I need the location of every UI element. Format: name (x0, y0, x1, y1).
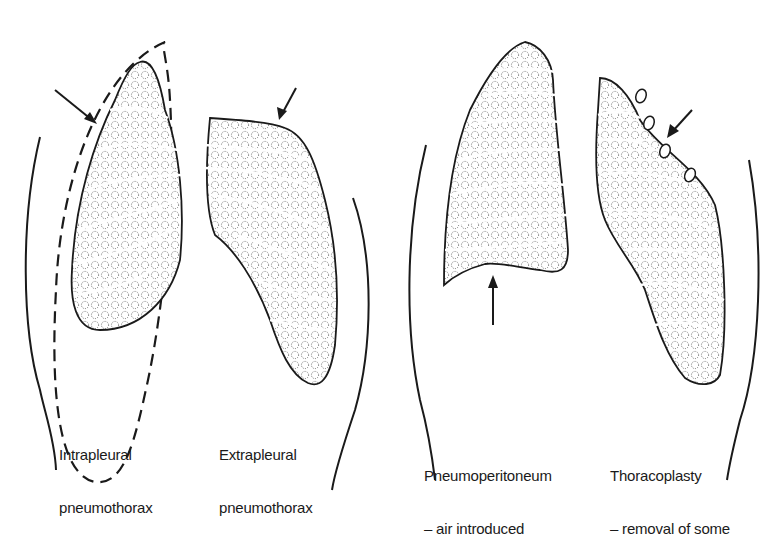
panel-pneumoperitoneum (409, 42, 568, 480)
caption-line: – air introduced (424, 520, 552, 534)
arrow-icon (488, 275, 498, 325)
caption-line: pneumothorax (59, 499, 159, 517)
arrow-icon (277, 88, 296, 120)
chest-wall-left (26, 137, 56, 470)
caption-line: – removal of some (610, 520, 730, 534)
caption-line: Pneumoperitoneum (424, 467, 552, 485)
collapsed-lung (72, 62, 182, 330)
caption-line: Extrapleural (219, 446, 370, 464)
caption-thoracoplasty: Thoracoplasty – removal of some of the r… (610, 432, 730, 534)
caption-extrapleural: Extrapleural pneumothorax – air introduc… (219, 411, 370, 534)
arrow-icon (55, 90, 97, 124)
thoracoplasty-lung (596, 78, 724, 384)
compressed-lung (207, 118, 337, 384)
caption-line: Thoracoplasty (610, 467, 730, 485)
chest-wall-right (727, 160, 759, 480)
caption-intrapleural: Intrapleural pneumothorax – air introduc… (59, 411, 159, 534)
panel-thoracoplasty (596, 78, 758, 480)
arrow-icon (667, 110, 692, 138)
caption-pneumoperitoneum: Pneumoperitoneum – air introduced into p… (424, 432, 552, 534)
caption-line: pneumothorax (219, 499, 370, 517)
chest-wall-left (409, 145, 435, 480)
caption-line: Intrapleural (59, 446, 159, 464)
